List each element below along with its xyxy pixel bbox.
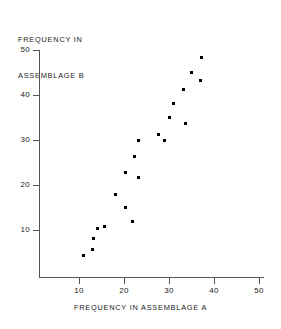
data-point bbox=[96, 227, 99, 230]
data-point bbox=[190, 71, 193, 74]
data-point bbox=[131, 220, 134, 223]
data-point bbox=[82, 254, 85, 257]
data-point bbox=[91, 248, 94, 251]
data-point bbox=[114, 193, 117, 196]
data-point bbox=[184, 122, 187, 125]
data-point bbox=[103, 225, 106, 228]
data-point bbox=[92, 237, 95, 240]
x-axis-title: FREQUENCY IN ASSEMBLAGE A bbox=[0, 303, 281, 312]
data-point bbox=[163, 139, 166, 142]
data-point bbox=[199, 79, 202, 82]
data-point bbox=[182, 88, 185, 91]
data-point bbox=[157, 133, 160, 136]
data-point bbox=[168, 116, 171, 119]
scatter-plot-figure: FREQUENCY IN ASSEMBLAGE B 1020304050 102… bbox=[0, 0, 281, 329]
data-point bbox=[200, 56, 203, 59]
data-point bbox=[172, 102, 175, 105]
data-point bbox=[133, 155, 136, 158]
data-point bbox=[124, 171, 127, 174]
data-point bbox=[137, 176, 140, 179]
data-point bbox=[124, 206, 127, 209]
data-point bbox=[137, 139, 140, 142]
data-points-layer bbox=[0, 0, 281, 329]
